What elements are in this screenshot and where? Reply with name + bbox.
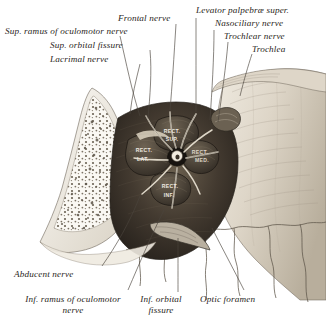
muscle-label-rectus-inferior-1: RECT. xyxy=(162,183,179,189)
anatomical-figure: RECT. SUP. RECT. LAT. RECT. MED. RECT. I… xyxy=(0,0,326,328)
label-levator-palpebrae-superioris: Levator palpebræ super. xyxy=(196,5,289,16)
muscle-label-rectus-lateralis-1: RECT. xyxy=(136,147,153,153)
label-sup-ramus-oculomotor-nerve: Sup. ramus of oculomotor nerve xyxy=(5,26,128,37)
label-inf-orbital-fissure: Inf. orbitalfissure xyxy=(130,294,192,315)
label-trochlea: Trochlea xyxy=(252,44,286,55)
label-sup-orbital-fissure: Sup. orbital fissure xyxy=(50,40,123,51)
muscle-label-rectus-lateralis-2: LAT. xyxy=(137,156,149,162)
muscle-label-rectus-superior-1: RECT. xyxy=(164,128,181,134)
label-lacrimal-nerve: Lacrimal nerve xyxy=(50,54,109,65)
muscle-label-rectus-superior-2: SUP. xyxy=(166,136,179,142)
muscle-label-rectus-inferior-2: INF. xyxy=(164,192,175,198)
label-trochlear-nerve: Trochlear nerve xyxy=(224,31,285,42)
muscle-label-rectus-medialis-1: RECT. xyxy=(192,149,209,155)
label-frontal-nerve: Frontal nerve xyxy=(118,13,170,24)
label-inf-ramus-oculomotor-nerve: Inf. ramus of oculomotornerve xyxy=(8,294,138,315)
label-nasociliary-nerve: Nasociliary nerve xyxy=(215,18,283,29)
label-optic-foramen: Optic foramen xyxy=(200,294,255,305)
rectus-inferior-muscle xyxy=(150,173,191,206)
muscle-label-rectus-medialis-2: MED. xyxy=(195,157,209,163)
optic-nerve-center xyxy=(175,154,179,159)
label-abducent-nerve: Abducent nerve xyxy=(14,269,74,280)
